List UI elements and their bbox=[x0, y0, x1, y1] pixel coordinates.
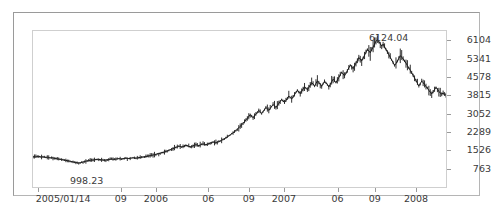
x-tick-label: 09 bbox=[369, 193, 381, 205]
price-wicks bbox=[33, 35, 446, 164]
y-tick-label: 2289 bbox=[467, 126, 491, 138]
y-tick-label: 763 bbox=[473, 163, 491, 175]
x-tick-mark bbox=[156, 188, 157, 192]
y-tick-mark bbox=[447, 114, 451, 115]
y-tick-label: 6104 bbox=[467, 34, 491, 46]
x-tick-label: 06 bbox=[202, 193, 214, 205]
y-axis-tick: 1526 bbox=[447, 144, 493, 156]
x-tick-label: 2005/01/14 bbox=[36, 193, 91, 205]
y-tick-mark bbox=[447, 40, 451, 41]
x-tick-mark bbox=[375, 188, 376, 192]
annotation-low-value: 998.23 bbox=[70, 175, 103, 186]
x-tick-label: 06 bbox=[332, 193, 344, 205]
y-axis: 6104534145783815305222891526763 bbox=[447, 30, 493, 188]
x-tick-mark bbox=[121, 188, 122, 192]
y-tick-mark bbox=[447, 77, 451, 78]
y-axis-tick: 763 bbox=[447, 163, 493, 175]
price-series-svg bbox=[33, 31, 446, 187]
y-tick-label: 5341 bbox=[467, 53, 491, 65]
y-axis-tick: 3052 bbox=[447, 108, 493, 120]
y-tick-label: 3815 bbox=[467, 89, 491, 101]
x-tick-mark bbox=[284, 188, 285, 192]
x-tick-mark bbox=[208, 188, 209, 192]
y-tick-mark bbox=[447, 95, 451, 96]
y-tick-label: 1526 bbox=[467, 144, 491, 156]
y-tick-mark bbox=[447, 169, 451, 170]
price-line bbox=[33, 40, 446, 163]
x-tick-label: 2007 bbox=[272, 193, 296, 205]
y-axis-tick: 5341 bbox=[447, 53, 493, 65]
x-tick-label: 2006 bbox=[144, 193, 168, 205]
x-tick-mark bbox=[38, 188, 39, 192]
y-axis-tick: 6104 bbox=[447, 34, 493, 46]
x-tick-mark bbox=[416, 188, 417, 192]
y-tick-label: 3052 bbox=[467, 108, 491, 120]
y-tick-mark bbox=[447, 132, 451, 133]
x-tick-label: 09 bbox=[115, 193, 127, 205]
x-tick-mark bbox=[249, 188, 250, 192]
x-tick-mark bbox=[338, 188, 339, 192]
chart-window: 6104534145783815305222891526763 2005/01/… bbox=[13, 12, 480, 196]
y-axis-tick: 2289 bbox=[447, 126, 493, 138]
x-axis: 2005/01/140920060609200706092008 bbox=[32, 188, 447, 208]
y-axis-tick: 3815 bbox=[447, 89, 493, 101]
x-tick-label: 09 bbox=[243, 193, 255, 205]
plot-area[interactable] bbox=[32, 30, 447, 188]
y-axis-tick: 4578 bbox=[447, 71, 493, 83]
annotation-high-value: 6124.04 bbox=[369, 32, 408, 43]
y-tick-mark bbox=[447, 59, 451, 60]
x-tick-label: 2008 bbox=[404, 193, 428, 205]
y-tick-label: 4578 bbox=[467, 71, 491, 83]
y-tick-mark bbox=[447, 150, 451, 151]
